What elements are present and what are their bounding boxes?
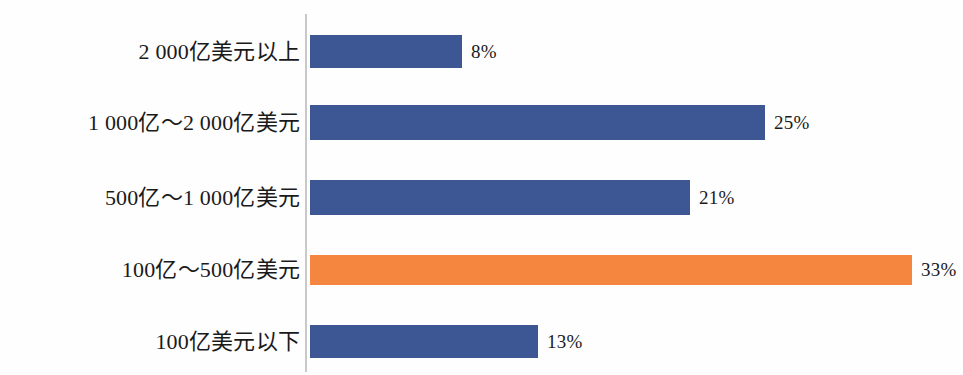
bar-row: 100亿美元以下 13%: [0, 325, 963, 358]
bar-group: 33%: [310, 255, 957, 285]
category-label: 500亿～1 000亿美元: [0, 180, 300, 215]
bar-value-label: 13%: [547, 331, 583, 353]
bar-value-label: 25%: [774, 112, 810, 134]
bar-segment: [310, 180, 690, 215]
bar-value-label: 8%: [471, 41, 497, 63]
bar-group: 8%: [310, 35, 497, 68]
bar-value-label: 33%: [921, 259, 957, 281]
bar-value-label: 21%: [699, 187, 735, 209]
bar-group: 13%: [310, 325, 583, 358]
bar-row: 500亿～1 000亿美元 21%: [0, 180, 963, 215]
bar-segment: [310, 325, 538, 358]
category-label: 1 000亿～2 000亿美元: [0, 105, 300, 140]
horizontal-bar-chart: 2 000亿美元以上 8% 1 000亿～2 000亿美元 25% 500亿～1…: [0, 0, 963, 375]
bar-row: 1 000亿～2 000亿美元 25%: [0, 105, 963, 140]
bar-row-highlighted: 100亿～500亿美元 33%: [0, 255, 963, 285]
bar-group: 21%: [310, 180, 735, 215]
bar-segment: [310, 35, 462, 68]
category-label: 100亿～500亿美元: [0, 255, 300, 285]
bar-group: 25%: [310, 105, 810, 140]
bar-segment-highlighted: [310, 255, 912, 285]
category-label: 100亿美元以下: [0, 325, 300, 358]
bar-row: 2 000亿美元以上 8%: [0, 35, 963, 68]
bar-segment: [310, 105, 765, 140]
category-label: 2 000亿美元以上: [0, 35, 300, 68]
